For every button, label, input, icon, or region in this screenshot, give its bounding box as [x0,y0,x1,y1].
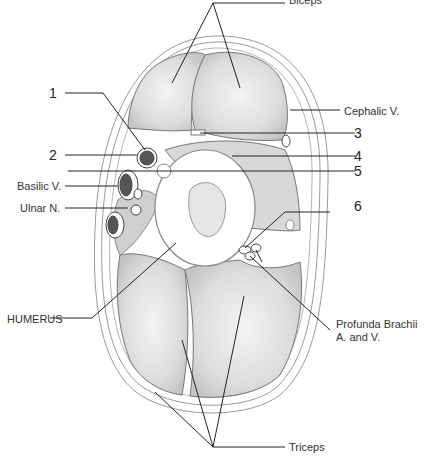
label-triceps: Triceps [289,441,325,453]
label-biceps: Biceps [289,0,322,6]
label-profunda-brachii-line2: A. and V. [336,331,380,343]
label-basilic-v: Basilic V. [17,180,61,192]
label-6: 6 [354,199,362,213]
label-1: 1 [49,86,57,100]
label-4: 4 [354,149,362,163]
label-ulnar-n: Ulnar N. [20,202,60,214]
label-profunda-brachii-line1: Profunda Brachii [336,318,417,330]
label-3: 3 [354,126,362,140]
arm-cross-section-illustration [0,0,429,459]
triceps-muscle [117,254,301,397]
biceps-muscle [128,52,287,140]
label-5: 5 [354,164,362,178]
label-cephalic-v: Cephalic V. [344,105,399,117]
label-2: 2 [49,148,57,162]
label-humerus: HUMERUS [7,313,63,325]
